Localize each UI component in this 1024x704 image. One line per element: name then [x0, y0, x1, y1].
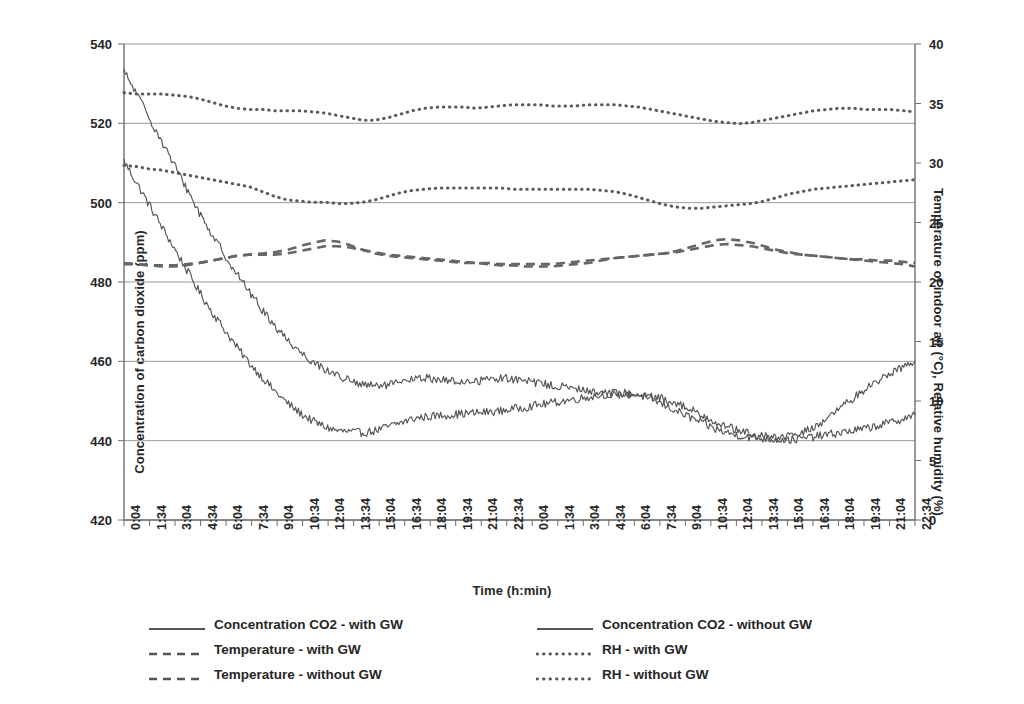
x-tick-label: 13:34 [767, 498, 781, 530]
x-tick-label: 0:04 [537, 505, 551, 530]
legend-item[interactable]: RH - with GW [536, 637, 908, 662]
y-tick-label-left: 460 [60, 354, 112, 369]
x-tick-label: 9:04 [690, 505, 704, 530]
x-tick-label: 3:04 [588, 505, 602, 530]
y-tick-label-right: 15 [929, 334, 969, 349]
legend-item[interactable]: Concentration CO2 - without GW [536, 612, 908, 637]
y-tick-label-left: 540 [60, 37, 112, 52]
x-tick-label: 22:34 [920, 498, 934, 530]
y-tick-label-right: 35 [929, 96, 969, 111]
y-tick-label-right: 25 [929, 215, 969, 230]
x-tick-label: 1:34 [563, 505, 577, 530]
y-tick-label-right: 5 [929, 453, 969, 468]
legend-label: Concentration CO2 - without GW [602, 617, 812, 632]
x-tick-label: 10:34 [716, 498, 730, 530]
series-line [124, 93, 915, 124]
x-tick-label: 7:34 [257, 505, 271, 530]
legend-label: RH - with GW [602, 642, 687, 657]
x-tick-label: 7:34 [665, 505, 679, 530]
x-tick-label: 16:34 [410, 498, 424, 530]
y-tick-label-right: 30 [929, 156, 969, 171]
x-tick-label: 12:04 [333, 498, 347, 530]
y-tick-label-left: 480 [60, 275, 112, 290]
legend-label: Temperature - with GW [214, 642, 361, 657]
x-tick-label: 18:04 [843, 498, 857, 530]
y-tick-label-left: 500 [60, 195, 112, 210]
y-tick-label-right: 10 [929, 394, 969, 409]
series-line [124, 159, 915, 443]
x-tick-label: 19:34 [869, 498, 883, 530]
x-tick-label: 9:04 [282, 505, 296, 530]
series-line [124, 165, 915, 208]
y-tick-label-left: 520 [60, 116, 112, 131]
legend-line-sample-dashed-icon [148, 645, 206, 655]
legend-line-sample-dotted-icon [536, 670, 594, 680]
legend-item[interactable]: Concentration CO2 - with GW [148, 612, 520, 637]
x-tick-label: 15:04 [792, 498, 806, 530]
x-tick-label: 15:04 [384, 498, 398, 530]
x-tick-label: 19:34 [461, 498, 475, 530]
x-tick-label: 10:34 [308, 498, 322, 530]
x-tick-label: 3:04 [180, 505, 194, 530]
legend-line-sample-dashed-icon [148, 670, 206, 680]
x-tick-label: 18:04 [435, 498, 449, 530]
legend-line-sample-solid-icon [148, 620, 206, 630]
x-tick-label: 21:04 [894, 498, 908, 530]
legend-item[interactable]: Temperature - with GW [148, 637, 520, 662]
x-tick-label: 6:04 [639, 505, 653, 530]
x-tick-label: 6:04 [231, 505, 245, 530]
y-tick-label-right: 0 [929, 513, 969, 528]
legend-label: Temperature - without GW [214, 667, 382, 682]
plot-area [0, 0, 1024, 704]
x-tick-label: 12:04 [741, 498, 755, 530]
chart-legend: Concentration CO2 - with GWConcentration… [148, 612, 908, 687]
x-tick-label: 21:04 [486, 498, 500, 530]
x-tick-label: 1:34 [155, 505, 169, 530]
legend-line-sample-solid-icon [536, 620, 594, 630]
y-tick-label-left: 420 [60, 513, 112, 528]
x-tick-label: 16:34 [818, 498, 832, 530]
series-line [124, 244, 915, 267]
legend-item[interactable]: Temperature - without GW [148, 662, 520, 687]
legend-label: RH - without GW [602, 667, 708, 682]
chart-container: Concentration of carbon dioxide (ppm) Te… [0, 0, 1024, 704]
y-tick-label-right: 40 [929, 37, 969, 52]
legend-line-sample-dotted-icon [536, 645, 594, 655]
x-tick-label: 4:34 [614, 505, 628, 530]
y-tick-label-right: 20 [929, 275, 969, 290]
x-tick-label: 22:34 [512, 498, 526, 530]
x-tick-label: 13:34 [359, 498, 373, 530]
x-tick-label: 0:04 [129, 505, 143, 530]
y-tick-label-left: 440 [60, 433, 112, 448]
x-tick-label: 4:34 [206, 505, 220, 530]
legend-label: Concentration CO2 - with GW [214, 617, 403, 632]
legend-item[interactable]: RH - without GW [536, 662, 908, 687]
